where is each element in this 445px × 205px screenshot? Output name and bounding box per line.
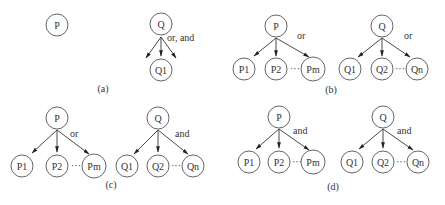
edge-c-q-q1	[134, 130, 158, 154]
node-b-qn: Qn	[406, 58, 428, 80]
svg-text:P2: P2	[271, 64, 282, 75]
node-d-q: Q	[372, 106, 394, 128]
node-c-pm: Pm	[82, 154, 106, 178]
node-b-p1: P1	[233, 58, 255, 80]
svg-text:P: P	[54, 113, 60, 124]
caption-c: (c)	[105, 179, 116, 191]
svg-text:Qn: Qn	[411, 64, 423, 75]
edge-d-p-p1	[256, 129, 279, 149]
caption-d: (d)	[327, 181, 339, 193]
edge-b-q-q1	[358, 38, 382, 57]
svg-text:Q2: Q2	[152, 161, 164, 172]
svg-text:P1: P1	[244, 157, 255, 168]
node-c-p2: P2	[46, 155, 68, 177]
node-d-q1: Q1	[341, 151, 363, 173]
node-c-q: Q	[147, 107, 169, 129]
ellipsis-b-left: ···	[290, 63, 300, 74]
svg-text:Q1: Q1	[346, 157, 358, 168]
relation-c-right: and	[175, 128, 189, 139]
svg-text:Pm: Pm	[306, 157, 320, 168]
svg-text:P: P	[54, 20, 60, 31]
svg-text:Q2: Q2	[377, 157, 389, 168]
relation-d-right: and	[397, 125, 411, 136]
caption-b: (b)	[325, 84, 337, 96]
svg-text:P1: P1	[239, 64, 250, 75]
svg-text:Q1: Q1	[121, 161, 133, 172]
node-c-q1: Q1	[116, 155, 138, 177]
node-c-p1: P1	[11, 155, 33, 177]
svg-text:P1: P1	[17, 161, 28, 172]
node-d-p1: P1	[238, 151, 260, 173]
ellipsis-d-left: ···	[292, 156, 302, 167]
node-a-q1: Q1	[150, 59, 172, 81]
node-c-p: P	[46, 107, 68, 129]
relation-a: or, and	[167, 32, 194, 43]
node-c-q2: Q2	[147, 155, 169, 177]
node-d-pm: Pm	[301, 150, 325, 174]
node-d-q2: Q2	[372, 151, 394, 173]
relation-b-left: or	[297, 30, 306, 41]
relation-b-right: or	[404, 30, 413, 41]
ellipsis-d-right: ···	[396, 156, 406, 167]
svg-text:Q: Q	[378, 21, 386, 32]
ellipsis-b-right: ···	[395, 63, 405, 74]
ellipsis-c-right: ···	[171, 160, 181, 171]
svg-text:Q1: Q1	[155, 65, 167, 76]
node-b-q2: Q2	[371, 58, 393, 80]
node-a-p: P	[46, 14, 68, 36]
svg-text:Qn: Qn	[412, 157, 424, 168]
panel-d: P and P1 P2 ··· Pm Q and Q1	[238, 106, 429, 193]
panel-a: P Q or, and Q1 (a)	[46, 13, 194, 95]
node-c-qn: Qn	[182, 155, 204, 177]
svg-text:Q: Q	[379, 112, 387, 123]
caption-a: (a)	[97, 83, 108, 95]
node-b-q1: Q1	[339, 58, 361, 80]
svg-text:Q: Q	[157, 19, 165, 30]
svg-text:P: P	[276, 112, 282, 123]
svg-text:P: P	[273, 21, 279, 32]
svg-text:P2: P2	[52, 161, 63, 172]
relation-d-left: and	[293, 125, 307, 136]
diagram-canvas: P Q or, and Q1 (a) P or P1 P	[0, 0, 445, 205]
svg-text:Q2: Q2	[376, 64, 388, 75]
node-b-q: Q	[371, 15, 393, 37]
edge-a-left	[146, 37, 161, 58]
svg-text:P2: P2	[274, 157, 285, 168]
node-b-pm: Pm	[301, 57, 325, 81]
edge-c-p-p1	[32, 130, 57, 153]
svg-text:Qn: Qn	[187, 161, 199, 172]
edge-b-p-p1	[254, 38, 276, 56]
node-b-p2: P2	[265, 58, 287, 80]
ellipsis-c-left: ···	[71, 160, 81, 171]
node-d-p: P	[268, 106, 290, 128]
node-b-p: P	[265, 15, 287, 37]
panel-b: P or P1 P2 ··· Pm Q or Q1	[233, 15, 428, 96]
relation-c-left: or	[70, 128, 79, 139]
node-d-qn: Qn	[407, 151, 429, 173]
svg-text:Q: Q	[154, 113, 162, 124]
node-d-p2: P2	[268, 151, 290, 173]
svg-text:Q1: Q1	[344, 64, 356, 75]
panel-c: P or P1 P2 ··· Pm Q and Q1	[11, 107, 204, 191]
svg-text:Pm: Pm	[87, 161, 101, 172]
svg-text:Pm: Pm	[306, 64, 320, 75]
edge-d-q-q1	[359, 129, 383, 149]
